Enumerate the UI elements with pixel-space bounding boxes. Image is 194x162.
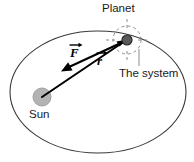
planet-body	[122, 35, 132, 45]
position-vector-arrow	[42, 40, 127, 98]
planet-label: Planet	[102, 3, 135, 15]
position-vector-label: r	[97, 54, 102, 67]
orbit-diagram: Planet The system Sun F r	[0, 0, 194, 162]
diagram-canvas	[0, 0, 194, 162]
sun-label: Sun	[29, 109, 49, 121]
force-vector-label: F	[70, 46, 79, 59]
system-label: The system	[119, 68, 178, 80]
